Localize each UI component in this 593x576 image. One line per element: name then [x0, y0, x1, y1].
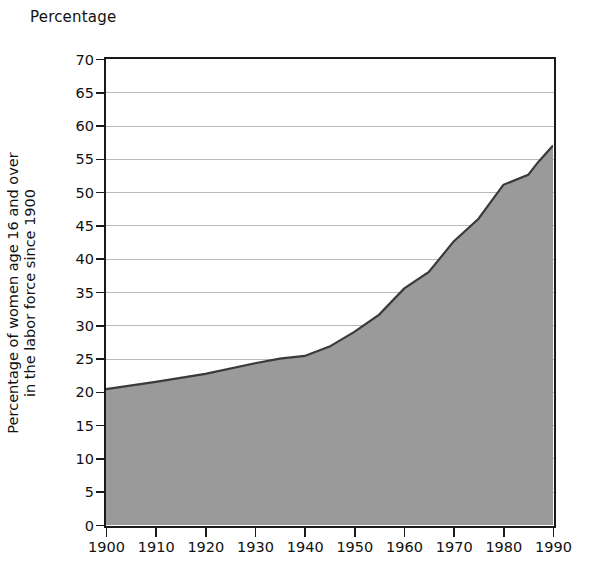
area-fill — [106, 146, 553, 525]
x-axis-tick — [354, 528, 356, 537]
y-axis-tick-label: 15 — [34, 418, 94, 434]
y-axis-tick-label: 60 — [34, 118, 94, 134]
x-axis-tick — [553, 528, 555, 537]
y-axis-tick — [96, 159, 105, 161]
chart-top-caption: Percentage — [30, 8, 116, 26]
x-axis-tick — [255, 528, 257, 537]
chart-figure: Percentage Percentage of women age 16 an… — [0, 0, 593, 576]
y-axis-tick — [96, 425, 105, 427]
x-axis-tick — [404, 528, 406, 537]
y-axis-tick — [96, 292, 105, 294]
x-axis-tick — [155, 528, 157, 537]
x-axis-tick — [304, 528, 306, 537]
y-axis-tick-label: 50 — [34, 185, 94, 201]
y-axis-tick — [96, 92, 105, 94]
plot-inner — [106, 59, 554, 526]
y-axis-tick — [96, 525, 105, 527]
y-axis-tick-label: 65 — [34, 85, 94, 101]
y-axis-tick-label: 5 — [34, 484, 94, 500]
y-axis-tick — [96, 392, 105, 394]
plot-area — [104, 57, 556, 528]
y-axis-tick — [96, 358, 105, 360]
y-axis-title-line-1: Percentage of women age 16 and over — [5, 152, 21, 433]
y-axis-tick-label: 70 — [34, 52, 94, 68]
y-axis-tick — [96, 491, 105, 493]
y-axis-tick-label: 25 — [34, 351, 94, 367]
y-axis-tick-label: 30 — [34, 318, 94, 334]
y-axis-tick — [96, 225, 105, 227]
y-axis-tick — [96, 125, 105, 127]
y-axis-tick-label: 55 — [34, 151, 94, 167]
y-axis-tick-label: 20 — [34, 384, 94, 400]
y-axis-tick-label: 35 — [34, 285, 94, 301]
y-axis-tick-label: 40 — [34, 251, 94, 267]
y-axis-tick — [96, 192, 105, 194]
x-axis-tick — [453, 528, 455, 537]
y-axis-tick-label: 45 — [34, 218, 94, 234]
y-axis-tick — [96, 59, 105, 61]
x-axis-tick — [503, 528, 505, 537]
x-axis-tick — [205, 528, 207, 537]
y-axis-tick — [96, 325, 105, 327]
x-axis-tick-label: 1990 — [524, 539, 584, 555]
x-axis-tick — [106, 528, 108, 537]
y-axis-tick-label: 0 — [34, 518, 94, 534]
area-series — [106, 59, 553, 525]
y-axis-tick — [96, 258, 105, 260]
y-axis-tick — [96, 458, 105, 460]
y-axis-tick-label: 10 — [34, 451, 94, 467]
